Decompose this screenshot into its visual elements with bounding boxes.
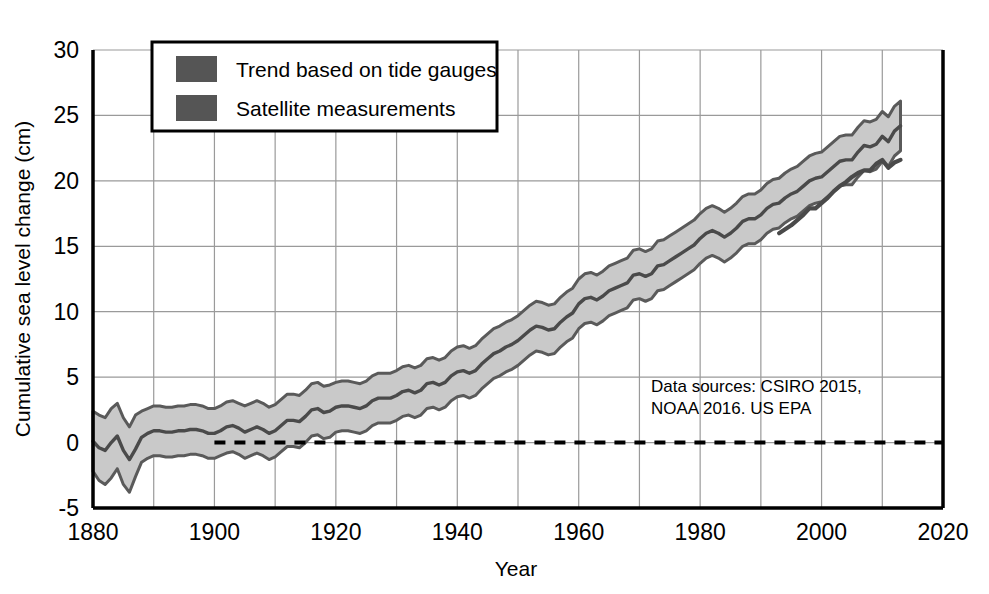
x-tick-label: 1960 bbox=[553, 519, 604, 545]
chart-container: 18801900192019401960198020002020 -505101… bbox=[0, 0, 989, 594]
annotation-line-1: Data sources: CSIRO 2015, bbox=[651, 377, 862, 396]
y-tick-label: 5 bbox=[66, 364, 79, 390]
chart-legend: Trend based on tide gauges Satellite mea… bbox=[152, 42, 497, 131]
x-tick-label: 2000 bbox=[796, 519, 847, 545]
y-axis-title: Cumulative sea level change (cm) bbox=[11, 121, 34, 437]
y-tick-label: 30 bbox=[53, 37, 79, 63]
x-tick-label: 1900 bbox=[189, 519, 240, 545]
sea-level-chart: 18801900192019401960198020002020 -505101… bbox=[0, 0, 989, 594]
x-tick-label: 1940 bbox=[432, 519, 483, 545]
annotation-line-2: NOAA 2016. US EPA bbox=[651, 399, 812, 418]
x-tick-label: 1980 bbox=[675, 519, 726, 545]
y-tick-label: 15 bbox=[53, 233, 79, 259]
legend-swatch-tide-gauges bbox=[176, 56, 217, 82]
y-tick-label: 25 bbox=[53, 102, 79, 128]
legend-swatch-satellite bbox=[176, 95, 217, 121]
x-tick-label: 1880 bbox=[67, 519, 118, 545]
y-tick-label: 10 bbox=[53, 299, 79, 325]
x-tick-label: 1920 bbox=[310, 519, 361, 545]
y-tick-label: 20 bbox=[53, 168, 79, 194]
x-tick-label: 2020 bbox=[917, 519, 968, 545]
y-tick-label: -5 bbox=[59, 495, 79, 521]
legend-label-tide-gauges: Trend based on tide gauges bbox=[236, 58, 497, 81]
legend-label-satellite: Satellite measurements bbox=[236, 97, 455, 120]
x-axis-title: Year bbox=[495, 557, 537, 580]
y-tick-label: 0 bbox=[66, 430, 79, 456]
